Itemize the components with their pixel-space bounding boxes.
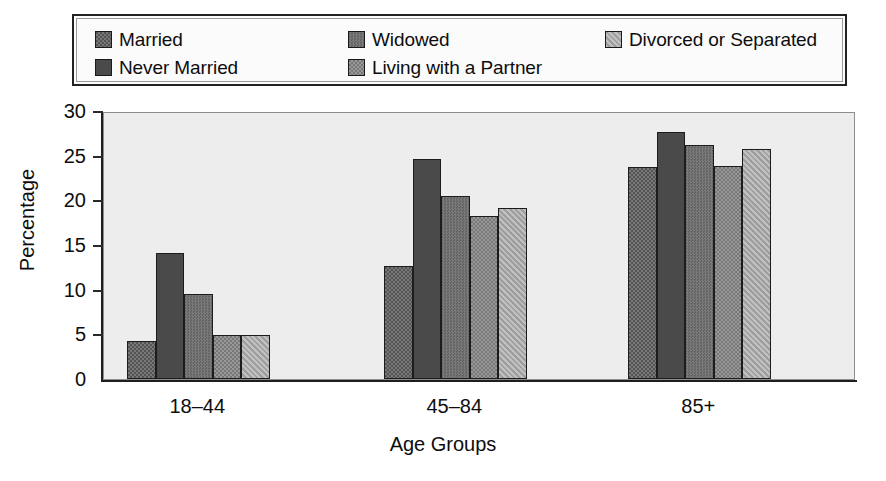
y-axis-tick-label: 15: [38, 235, 86, 255]
legend-swatch-divorced-or-separated: [605, 31, 622, 48]
y-axis-tick-label-text: 0: [38, 369, 86, 389]
legend-label-living-with-a-partner: Living with a Partner: [372, 58, 542, 77]
legend-label-never-married: Never Married: [119, 58, 238, 77]
y-axis-tick: [93, 111, 103, 113]
y-axis-tick-label: 10: [38, 280, 86, 300]
y-axis-tick-label: 25: [38, 146, 86, 166]
legend-entry-never-married: Never Married: [95, 53, 238, 81]
plot-area: [104, 113, 854, 379]
legend-column-3: Divorced or Separated: [605, 25, 817, 53]
bar: [628, 167, 657, 379]
legend-entry-divorced-or-separated: Divorced or Separated: [605, 25, 817, 53]
bar: [127, 341, 156, 379]
y-axis-title: Percentage: [17, 130, 37, 310]
legend-swatch-never-married: [95, 59, 112, 76]
y-axis-tick-label-text: 25: [38, 146, 86, 166]
bar: [685, 145, 714, 379]
x-axis-group-label: 85+: [638, 396, 758, 416]
x-axis-group-label: 45–84: [394, 396, 514, 416]
legend-label-married: Married: [119, 30, 183, 49]
chart-plot-frame: [103, 112, 855, 380]
bar: [498, 208, 527, 379]
bar: [184, 294, 213, 379]
legend-entry-living-with-a-partner: Living with a Partner: [348, 53, 542, 81]
legend-inner-border: Married Never Married Widowed Living wit…: [76, 18, 843, 82]
bar: [470, 216, 499, 379]
y-axis-tick: [93, 290, 103, 292]
y-axis-tick-label-text: 10: [38, 280, 86, 300]
legend-swatch-widowed: [348, 31, 365, 48]
bar: [742, 149, 771, 379]
y-axis-tick: [93, 156, 103, 158]
x-axis-title: Age Groups: [0, 434, 886, 454]
y-axis-tick: [93, 200, 103, 202]
legend-label-divorced-or-separated: Divorced or Separated: [629, 30, 817, 49]
legend-label-widowed: Widowed: [372, 30, 449, 49]
y-axis-tick-label-text: 15: [38, 235, 86, 255]
bar: [156, 253, 185, 379]
y-axis-tick-label-text: 5: [38, 324, 86, 344]
bar: [213, 335, 242, 379]
y-axis-tick-label: 5: [38, 324, 86, 344]
y-axis-tick-label-text: 30: [38, 101, 86, 121]
bar: [657, 132, 686, 379]
legend-swatch-married: [95, 31, 112, 48]
x-axis-group-label: 18–44: [137, 396, 257, 416]
legend-column-1: Married Never Married: [95, 25, 238, 81]
bar: [413, 159, 442, 379]
y-axis-tick-label: 20: [38, 190, 86, 210]
y-axis-tick: [93, 334, 103, 336]
y-axis-tick: [93, 245, 103, 247]
x-axis-line: [101, 380, 857, 382]
bar: [714, 166, 743, 379]
legend-entry-widowed: Widowed: [348, 25, 542, 53]
y-axis-tick-label-text: 20: [38, 190, 86, 210]
bar: [384, 266, 413, 379]
bar: [241, 335, 270, 379]
y-axis-tick-label: 30: [38, 101, 86, 121]
bar: [441, 196, 470, 379]
legend-swatch-living-with-a-partner: [348, 59, 365, 76]
legend-entry-married: Married: [95, 25, 238, 53]
y-axis-tick-label: 0: [38, 369, 86, 389]
legend-column-2: Widowed Living with a Partner: [348, 25, 542, 81]
chart-legend: Married Never Married Widowed Living wit…: [72, 14, 847, 86]
